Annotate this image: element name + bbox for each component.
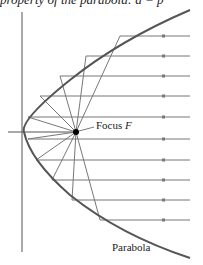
parabola-label: Parabola [112,241,150,253]
focus-leader-line [79,127,94,131]
focus-point [73,129,79,135]
focus-label-text: Focus [96,119,125,131]
ray-arrow-marks [162,35,165,222]
parabola-curve [24,10,190,258]
focus-label: Focus F [96,119,132,131]
parabola-reflection-diagram [0,0,203,265]
focus-label-variable: F [125,119,132,131]
